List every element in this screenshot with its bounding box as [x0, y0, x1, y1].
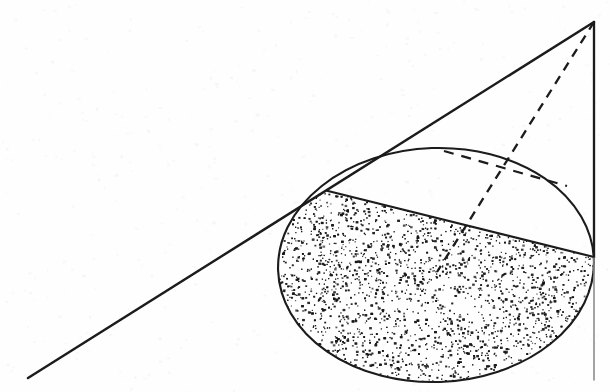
- figure-page: volume kept: [0, 0, 610, 392]
- geometric-figure: [0, 0, 610, 392]
